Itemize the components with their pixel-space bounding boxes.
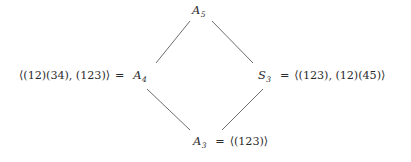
subgroup-lattice-diagram: A5 ⟨(12)(34), (123)⟩ = A4 S3 = ⟨(123), (… (0, 0, 411, 162)
edge-a3-a4 (147, 89, 190, 130)
node-a3-generators: ⟨(123)⟩ (230, 136, 268, 147)
node-a3-row: A3 = ⟨(123)⟩ (193, 136, 268, 148)
node-s3-row: S3 = ⟨(123), (12)(45)⟩ (258, 70, 385, 82)
node-a5-symbol: A (192, 3, 200, 17)
node-s3-symbol: S (258, 68, 266, 82)
node-a5-subscript: 5 (201, 10, 206, 19)
edge-a4-a5 (156, 21, 190, 63)
node-s3-generators: ⟨(123), (12)(45)⟩ (294, 70, 385, 81)
node-a3-symbol: A (193, 134, 201, 148)
node-a4-row: ⟨(12)(34), (123)⟩ = A4 (19, 70, 147, 82)
node-a5: A5 (192, 5, 205, 17)
node-a3-equals: = (215, 136, 224, 147)
node-a4-equals: = (115, 70, 124, 81)
node-a4: A4 (133, 70, 146, 82)
node-a4-generators: ⟨(12)(34), (123)⟩ (19, 70, 110, 81)
node-a3: A3 (193, 136, 206, 148)
node-s3: S3 (258, 70, 271, 82)
node-s3-subscript: 3 (266, 75, 271, 84)
node-a4-subscript: 4 (142, 75, 147, 84)
edge-a3-s3 (222, 89, 263, 130)
node-s3-equals: = (280, 70, 289, 81)
node-a4-symbol: A (133, 68, 141, 82)
node-a3-subscript: 3 (202, 141, 207, 150)
edge-s3-a5 (212, 21, 253, 63)
